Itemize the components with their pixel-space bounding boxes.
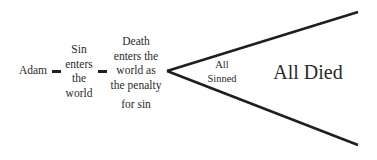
death-enters-line-4: the penalty	[108, 78, 164, 93]
all-sinned-line-2: Sinned	[200, 72, 244, 86]
death-enters-line-2: enters the	[108, 49, 164, 64]
node-all-sinned: All Sinned	[200, 58, 244, 86]
adam-label: Adam	[19, 64, 47, 76]
node-death-enters-world: Death enters the world as the penalty fo…	[108, 34, 164, 112]
node-sin-enters-world: Sin enters the world	[62, 42, 96, 100]
sin-enters-line-1: Sin	[62, 42, 96, 57]
all-died-label: All Died	[273, 61, 342, 83]
death-enters-line-1: Death	[108, 34, 164, 49]
sin-enters-line-2: enters	[62, 57, 96, 72]
sin-enters-line-4: world	[62, 86, 96, 101]
all-sinned-line-1: All	[200, 58, 244, 72]
death-enters-line-5: for sin	[108, 97, 164, 112]
sin-enters-line-3: the	[62, 71, 96, 86]
death-enters-line-3: world as	[108, 63, 164, 78]
node-all-died: All Died	[262, 62, 354, 82]
node-adam: Adam	[16, 65, 50, 77]
